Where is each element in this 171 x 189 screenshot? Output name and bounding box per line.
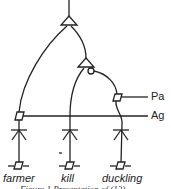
patient-label: Pa (151, 91, 164, 102)
figure-caption: Figure 1 Presentation of (13) (20, 184, 125, 189)
pa-node (113, 94, 122, 101)
small-circle-node (88, 68, 94, 74)
duckling-word-node (110, 162, 131, 169)
edge-top-to-farmer (19, 26, 67, 112)
agent-label: Ag (151, 110, 164, 121)
word-kill: kill (61, 173, 74, 184)
top-triangle-node (61, 16, 77, 25)
kill-word-node (59, 162, 80, 169)
dependency-diagram (0, 0, 171, 189)
word-duckling: duckling (102, 173, 142, 184)
word-farmer: farmer (3, 173, 35, 184)
ag-node (15, 112, 24, 120)
second-triangle-node (78, 58, 94, 67)
edge-top-to-second-triangle (71, 26, 86, 58)
edge-circle-to-pa (94, 71, 117, 94)
farmer-word-node (8, 162, 29, 169)
